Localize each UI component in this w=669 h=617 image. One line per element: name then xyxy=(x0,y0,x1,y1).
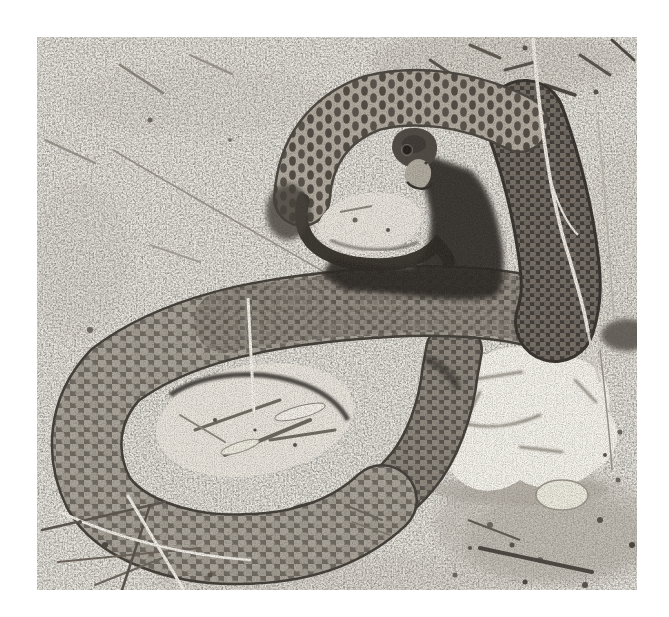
snake-photograph xyxy=(0,0,669,617)
photo-canvas xyxy=(0,0,669,617)
film-grain-overlay xyxy=(36,36,638,591)
printed-page xyxy=(0,0,669,617)
